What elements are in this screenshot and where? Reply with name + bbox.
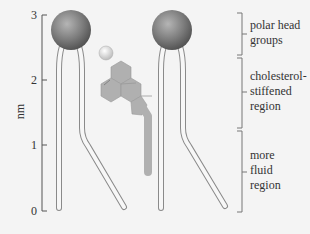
region-label-cholesterol-stiffened: cholesterol- stiffened region: [250, 69, 307, 114]
tick-0: 0: [31, 205, 37, 217]
lipid-1-head: [51, 10, 91, 50]
hydroxyl-group: [99, 46, 113, 60]
lipid-2-tails: [161, 46, 225, 208]
y-axis: [42, 15, 47, 211]
lipid-2-head: [152, 10, 192, 50]
tick-3: 3: [31, 9, 37, 21]
cholesterol-molecule: [99, 46, 152, 172]
region-label-more-fluid: more fluid region: [250, 148, 281, 193]
region-brackets: [237, 13, 247, 212]
tick-1: 1: [31, 139, 37, 151]
tick-2: 2: [31, 74, 37, 86]
y-axis-label: nm: [13, 104, 28, 119]
region-label-polar-head: polar head groups: [250, 18, 300, 48]
